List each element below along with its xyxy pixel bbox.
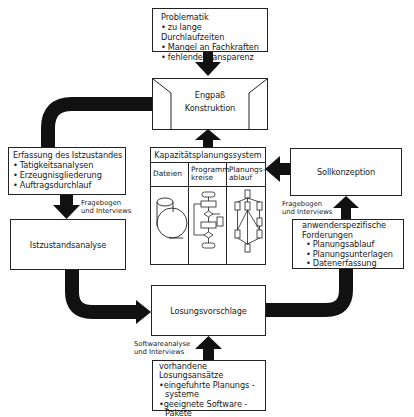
return-connector [266,268,346,310]
arrow-up-icon [333,196,359,220]
list-item: Datenerfassung [306,259,403,269]
engpass-line2: Konstruktion [185,102,235,115]
list-item: fehlende Transparenz [161,52,267,62]
loesung-box: Losungsvorschlage [151,285,266,336]
arrow-left-icon [265,156,290,182]
anwender-box: anwenderspezifische Forderungen Planungs… [292,219,404,269]
sollkonzeption-box: Sollkonzeption [290,148,402,196]
sollkonzeption-label: Sollkonzeption [317,167,375,177]
istzustand-box: Istzustandsanalyse [10,219,126,270]
problematik-box: Problematik zu lange Durchlaufzeiten Man… [152,8,268,52]
kapazitaet-title: Kapazitätsplanungssystem [151,148,265,163]
list-item: Tatigkeitsanalysen [13,160,125,170]
software-analysis-label: Softwareanalyse und Interviews [134,340,190,356]
interview-label-right: Fragebogen und Interviews [282,200,332,216]
list-item: zu lange Durchlaufzeiten [161,22,267,42]
network-plan-icon [228,188,266,254]
engpass-box: Engpaß Konstruktion [152,78,268,130]
loesung-label: Losungsvorschlage [170,306,247,316]
list-item: Erzeugnisgliederung [13,170,125,180]
arrow-up-icon [195,129,221,147]
column-programmkreise: Programm kreise [189,162,227,264]
flowchart-icon [190,190,226,252]
kapazitaet-box: Kapazitätsplanungssystem Dateien Program… [150,147,266,265]
list-item: Mangel an Fachkraften [161,42,267,52]
interview-label-left: Fragebogen und Interviews [81,199,131,215]
loop-connector [48,104,152,147]
erfassung-title: Erfassung des Istzustandes [13,150,125,160]
column-planungsablauf: Planungs- ablauf [227,162,265,264]
list-item: Auftragsdurchlauf [13,180,125,190]
erfassung-box: Erfassung des Istzustandes Tatigkeitsana… [8,147,126,195]
column-dateien: Dateien [151,162,189,264]
database-cylinder-icon [153,196,189,242]
istzustand-label: Istzustandsanalyse [30,240,106,250]
problematik-title: Problematik [161,12,267,22]
curve-connector [72,270,138,312]
arrow-down-icon [53,195,80,219]
engpass-line1: Engpaß [195,89,225,102]
arrow-right-icon [136,300,151,324]
vorhandene-box: vorhandene Losungsansätze •eingefuhrte P… [152,360,266,411]
arrow-up-icon [195,336,222,360]
